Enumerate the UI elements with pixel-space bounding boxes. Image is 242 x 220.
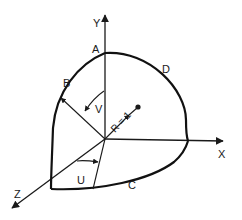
arc-c-xz	[51, 141, 188, 189]
angle-v-label: V	[95, 103, 103, 115]
z-axis-label: Z	[14, 188, 21, 200]
point-d-label: D	[162, 63, 170, 75]
point-a-label: A	[92, 43, 100, 55]
x-axis	[105, 139, 223, 141]
arc-ab-yz	[51, 53, 105, 189]
point-b-label: B	[63, 77, 70, 89]
point-c-label: C	[128, 179, 136, 191]
y-axis-label: Y	[93, 17, 101, 29]
spherical-octant-diagram: Y X Z A B C D U V R = 1	[0, 0, 242, 220]
radius-endpoint-dot	[135, 104, 140, 109]
radius-vector-tail	[129, 108, 137, 115]
angle-u-label: U	[77, 174, 85, 186]
x-axis-label: X	[218, 148, 226, 160]
radius-label: R = 1	[108, 109, 133, 135]
u-angle-arc	[77, 161, 98, 162]
z-axis	[12, 139, 105, 208]
